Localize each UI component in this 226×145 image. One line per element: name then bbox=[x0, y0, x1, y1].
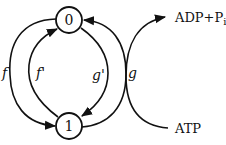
state-1-label: 1 bbox=[65, 118, 74, 134]
atp-label: ATP bbox=[174, 121, 201, 136]
transition-g-prime-label: g' bbox=[92, 67, 105, 83]
transition-g-label: g bbox=[128, 65, 137, 81]
diagram-canvas: 0 1 f f' g' g ADP+Pi ATP bbox=[0, 0, 226, 145]
transition-f-prime-label: f' bbox=[35, 65, 45, 81]
adp-pi-label: ADP+Pi bbox=[174, 10, 226, 27]
state-0-label: 0 bbox=[65, 12, 74, 28]
transition-f-label: f bbox=[1, 65, 10, 81]
